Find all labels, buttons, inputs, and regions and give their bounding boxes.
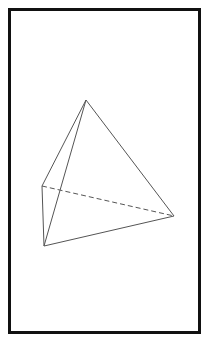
tetrahedron-figure: [0, 0, 205, 342]
visible-edge: [44, 216, 174, 246]
visible-edge: [42, 186, 44, 246]
visible-edge: [42, 100, 86, 186]
visible-edge: [44, 100, 86, 246]
